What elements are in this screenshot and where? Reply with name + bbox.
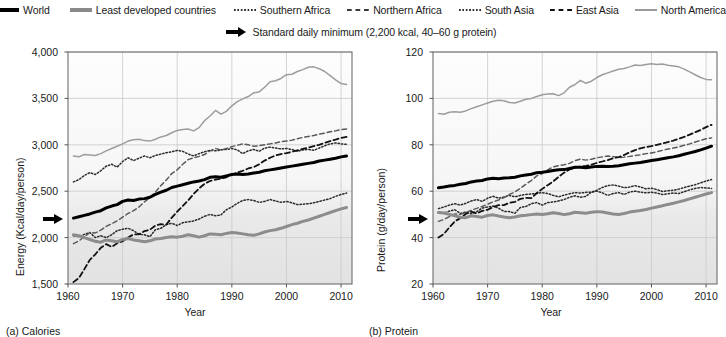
line-swatch-icon — [70, 5, 92, 15]
x-tick-label: 1990 — [212, 290, 252, 302]
x-tick-label: 1960 — [48, 290, 88, 302]
y-tick-label: 20 — [383, 278, 423, 290]
legend-item-label: South Asia — [485, 5, 534, 16]
legend-item-standard-daily-minimum: Standard daily minimum (2,200 kcal, 40–6… — [226, 27, 496, 38]
x-tick-label: 1970 — [468, 290, 508, 302]
x-tick-label: 2000 — [266, 290, 306, 302]
legend-item-label: Southern Africa — [260, 5, 330, 16]
y-tick-label: 80 — [383, 139, 423, 151]
legend-item-label: Standard daily minimum (2,200 kcal, 40–6… — [252, 27, 496, 38]
panel-calories: Energy (Kcal/day/person) Year (a) Calori… — [0, 44, 362, 331]
legend-item-east-asia: East Asia — [550, 5, 619, 16]
legend-item-label: North America — [661, 5, 726, 16]
legend-item-label: Northern Africa — [373, 5, 442, 16]
legend-item-least-developed-countries: Least developed countries — [70, 5, 216, 16]
line-swatch-icon — [635, 5, 657, 15]
y-tick-label: 2,500 — [18, 185, 58, 197]
y-tick-label: 60 — [383, 185, 423, 197]
line-swatch-icon — [459, 5, 481, 15]
legend-item-label: East Asia — [576, 5, 619, 16]
y-tick-label: 3,500 — [18, 92, 58, 104]
x-axis-label: Year — [461, 306, 641, 318]
legend-row-primary: WorldLeast developed countriesSouthern A… — [0, 0, 723, 20]
y-tick-label: 100 — [383, 92, 423, 104]
x-tick-label: 2010 — [686, 290, 726, 302]
x-tick-label: 1960 — [413, 290, 453, 302]
line-swatch-icon — [347, 5, 369, 15]
right-arrow-icon — [226, 27, 248, 38]
legend-item-world: World — [0, 5, 50, 16]
legend-item-southern-africa: Southern Africa — [234, 5, 330, 16]
x-tick-label: 1980 — [522, 290, 562, 302]
x-tick-label: 2010 — [321, 290, 361, 302]
line-swatch-icon — [234, 5, 256, 15]
y-tick-label: 120 — [383, 46, 423, 58]
panel-caption: (b) Protein — [369, 325, 418, 337]
panel-protein: Protein (g/day/person) Year (b) Protein … — [361, 44, 723, 331]
line-swatch-icon — [0, 5, 19, 15]
legend-item-north-america: North America — [635, 5, 726, 16]
y-tick-label: 40 — [383, 232, 423, 244]
x-tick-label: 1970 — [103, 290, 143, 302]
y-tick-label: 1,500 — [18, 278, 58, 290]
legend-item-label: Least developed countries — [96, 5, 216, 16]
x-tick-label: 2000 — [631, 290, 671, 302]
panel-caption: (a) Calories — [6, 325, 60, 337]
y-tick-label: 3,000 — [18, 139, 58, 151]
legend-row-annotation: Standard daily minimum (2,200 kcal, 40–6… — [0, 22, 723, 42]
x-tick-label: 1990 — [577, 290, 617, 302]
x-axis-label: Year — [105, 306, 285, 318]
legend-item-northern-africa: Northern Africa — [347, 5, 442, 16]
legend-item-label: World — [23, 5, 50, 16]
y-tick-label: 2,000 — [18, 232, 58, 244]
figure-legend: WorldLeast developed countriesSouthern A… — [0, 0, 723, 44]
plot-background — [68, 52, 352, 284]
legend-item-south-asia: South Asia — [459, 5, 534, 16]
line-swatch-icon — [550, 5, 572, 15]
y-tick-label: 4,000 — [18, 46, 58, 58]
x-tick-label: 1980 — [157, 290, 197, 302]
